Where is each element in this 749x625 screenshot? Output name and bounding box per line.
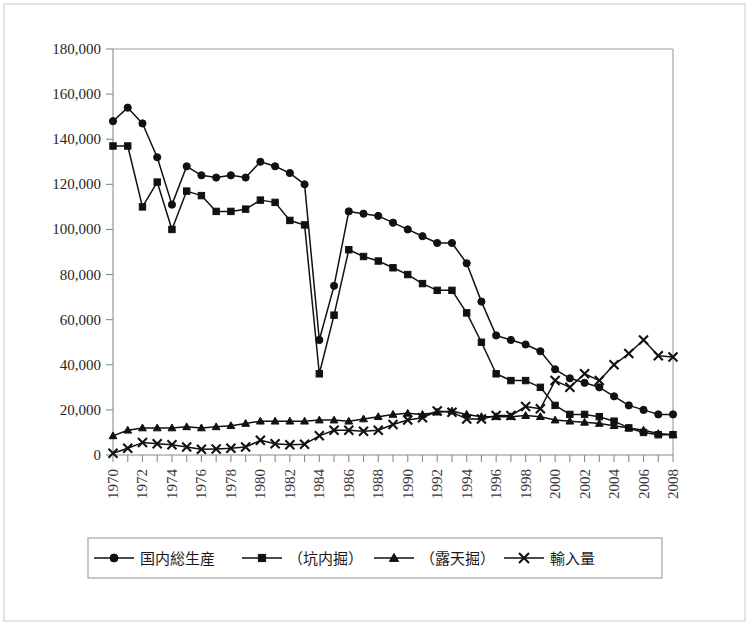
data-point-circle (301, 181, 308, 188)
x-axis: 1970197219741976197819801982198419861988… (105, 455, 681, 499)
data-point-square (154, 179, 160, 185)
chart-canvas: 020,00040,00060,00080,000100,000120,0001… (0, 0, 749, 625)
y-tick-label: 120,000 (52, 176, 101, 192)
data-point-circle (168, 201, 175, 208)
data-point-cross (389, 420, 398, 429)
data-point-circle (227, 172, 234, 179)
x-tick-label: 2000 (547, 469, 563, 499)
x-tick-label: 1982 (282, 469, 298, 499)
x-tick-label: 1974 (164, 469, 180, 500)
x-tick-label: 1978 (223, 469, 239, 499)
series-4 (109, 335, 678, 457)
data-point-circle (566, 375, 573, 382)
data-point-square (272, 199, 278, 205)
data-point-circle (404, 226, 411, 233)
data-point-circle (478, 298, 485, 305)
data-point-circle (154, 154, 161, 161)
data-point-circle (434, 239, 441, 246)
data-point-cross (639, 335, 648, 344)
data-point-square (301, 222, 307, 228)
data-point-circle (242, 174, 249, 181)
series-3 (109, 407, 677, 439)
data-point-cross (315, 431, 324, 440)
data-point-square (183, 188, 189, 194)
x-tick-label: 1976 (193, 469, 209, 500)
data-point-square (405, 271, 411, 277)
data-point-cross (565, 383, 574, 392)
data-point-square (213, 208, 219, 214)
data-point-square (169, 226, 175, 232)
data-point-circle (655, 411, 662, 418)
data-point-square (360, 253, 366, 259)
legend-item-label: 国内総生産 (140, 550, 215, 568)
figure-border (4, 4, 745, 621)
series-2 (110, 143, 676, 438)
y-tick-label: 140,000 (52, 131, 101, 147)
data-point-circle (493, 332, 500, 339)
x-tick-label: 2004 (606, 469, 622, 500)
data-point-square (493, 371, 499, 377)
data-point-square (375, 258, 381, 264)
chart-legend: 国内総生産（坑内掘）（露天掘）輸入量 (88, 538, 662, 578)
x-tick-label: 2002 (577, 469, 593, 499)
series-line (113, 108, 673, 415)
series-line (113, 340, 673, 453)
x-tick-label: 1992 (429, 469, 445, 499)
data-point-square (125, 143, 131, 149)
data-point-circle (552, 366, 559, 373)
data-point-square (228, 208, 234, 214)
y-tick-label: 180,000 (52, 41, 101, 57)
data-point-square (449, 287, 455, 293)
legend-item-label: （坑内掘） (288, 550, 363, 568)
data-point-square (434, 287, 440, 293)
y-tick-label: 80,000 (60, 267, 101, 283)
data-point-circle (596, 384, 603, 391)
data-point-square (419, 280, 425, 286)
data-point-square (287, 217, 293, 223)
x-tick-label: 1990 (400, 469, 416, 499)
data-point-circle (257, 158, 264, 165)
data-point-cross (580, 369, 589, 378)
data-point-circle (110, 554, 118, 562)
data-point-square (316, 371, 322, 377)
data-point-circle (581, 379, 588, 386)
y-tick-label: 0 (94, 447, 102, 463)
x-tick-label: 2008 (665, 469, 681, 499)
data-point-square (258, 554, 265, 561)
y-tick-label: 100,000 (52, 221, 101, 237)
x-tick-label: 1986 (341, 469, 357, 500)
data-point-circle (375, 212, 382, 219)
data-point-circle (522, 341, 529, 348)
x-tick-label: 1998 (518, 469, 534, 499)
series-line (113, 146, 673, 435)
data-point-circle (183, 163, 190, 170)
data-point-circle (537, 348, 544, 355)
data-point-circle (419, 233, 426, 240)
series-layer (109, 104, 678, 458)
chart-figure: 020,00040,00060,00080,000100,000120,0001… (0, 0, 749, 625)
data-point-square (242, 206, 248, 212)
x-tick-label: 1994 (459, 469, 475, 500)
x-tick-label: 1980 (252, 469, 268, 499)
series-1 (109, 104, 676, 418)
data-point-circle (640, 406, 647, 413)
data-point-circle (272, 163, 279, 170)
x-tick-label: 1970 (105, 469, 121, 499)
data-point-square (463, 310, 469, 316)
data-point-circle (360, 210, 367, 217)
y-tick-label: 40,000 (60, 357, 101, 373)
data-point-square (537, 384, 543, 390)
x-tick-label: 2006 (636, 469, 652, 500)
data-point-cross (610, 360, 619, 369)
legend-item-label: 輸入量 (550, 550, 595, 568)
y-axis: 020,00040,00060,00080,000100,000120,0001… (52, 41, 113, 463)
data-point-circle (625, 402, 632, 409)
data-point-cross (551, 376, 560, 385)
data-point-square (552, 402, 558, 408)
data-point-circle (286, 169, 293, 176)
data-point-square (198, 192, 204, 198)
data-point-circle (610, 393, 617, 400)
data-point-square (139, 204, 145, 210)
data-point-square (522, 377, 528, 383)
data-point-circle (213, 174, 220, 181)
